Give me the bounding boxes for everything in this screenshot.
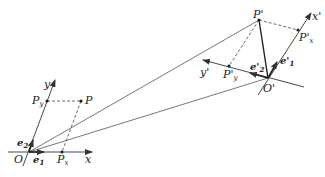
label-py-prime: P'y (222, 68, 238, 82)
label-py: Py (31, 94, 44, 108)
label-e2-prime: e'2 (250, 61, 264, 74)
label-p: P (84, 94, 93, 107)
label-px-prime: P'x (298, 31, 313, 45)
label-e1: e1 (33, 154, 44, 167)
label-y-prime-axis: y' (199, 66, 209, 79)
label-origin: O (14, 153, 23, 166)
label-e2: e2 (17, 137, 28, 150)
basis-e1-prime (268, 62, 277, 78)
label-e1-prime: e'1 (280, 55, 294, 68)
label-y-axis: y (43, 78, 51, 91)
label-origin-prime: O' (263, 82, 275, 95)
point-p (79, 99, 82, 102)
projection-py-prime-line (229, 20, 259, 66)
projection-px-line (62, 101, 81, 152)
label-px: Px (56, 153, 68, 167)
line-o-to-p-prime (29, 20, 259, 152)
frame-transformation-diagram: O x y P e1 e2 Px Py O' x' y' P' e'1 e'2 … (0, 0, 325, 177)
projection-px-prime-line (259, 20, 298, 30)
line-o-to-o-prime (29, 78, 268, 152)
label-p-prime: P' (252, 8, 263, 21)
point-py (45, 99, 48, 102)
label-x-axis: x (85, 153, 92, 166)
label-x-prime-axis: x' (312, 10, 321, 23)
